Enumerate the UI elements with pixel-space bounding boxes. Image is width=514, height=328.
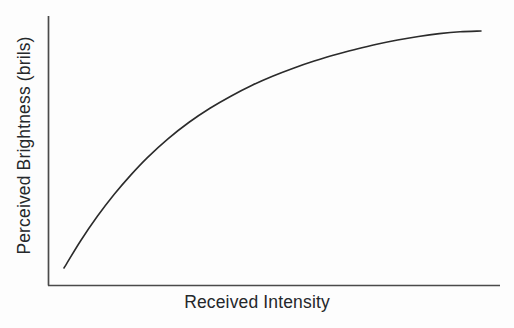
- data-curve-brightness: [64, 31, 481, 268]
- figure-canvas: Perceived Brightness (brils) Received In…: [0, 0, 514, 328]
- y-axis-label: Perceived Brightness (brils): [14, 36, 35, 254]
- x-axis-label: Received Intensity: [0, 292, 514, 313]
- y-axis-label-container: Perceived Brightness (brils): [0, 0, 48, 290]
- chart-plot-area: [0, 0, 514, 328]
